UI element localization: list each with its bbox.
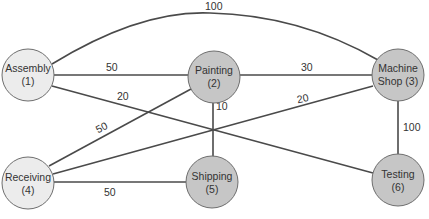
node-number: Shop (3) [378, 75, 418, 87]
node-circle [186, 156, 238, 208]
node-machine-shop: Machine Shop (3) [372, 49, 424, 101]
node-receiving: Receiving (4) [2, 157, 54, 209]
node-name: Machine [378, 62, 418, 74]
node-shipping: Shipping (5) [186, 156, 238, 208]
node-number: (2) [208, 77, 221, 89]
node-name: Testing [381, 168, 414, 180]
node-number: (1) [22, 75, 35, 87]
node-name: Receiving [5, 171, 51, 183]
node-circle [372, 154, 424, 206]
edge-label-painting-machine-shop: 30 [301, 61, 313, 73]
edge-label-receiving-shipping: 50 [104, 186, 116, 198]
edge-label-assembly-painting: 50 [106, 61, 118, 73]
node-name: Assembly [5, 62, 51, 74]
node-name: Painting [195, 64, 233, 76]
node-assembly: Assembly (1) [2, 49, 54, 101]
node-painting: Painting (2) [188, 51, 240, 103]
node-number: (6) [392, 181, 405, 193]
edge-label-assembly-machine-shop: 100 [205, 0, 223, 12]
network-diagram: 100 50 30 20 10 20 50 100 50 Assembly (1… [0, 0, 429, 219]
node-number: (5) [206, 183, 219, 195]
edge-labels: 100 50 30 20 10 20 50 100 50 [93, 0, 420, 198]
edge-label-assembly-testing: 20 [117, 90, 129, 102]
edge-label-receiving-painting: 50 [93, 119, 109, 135]
edge-label-machine-shop-testing: 100 [403, 121, 421, 133]
node-circle [2, 157, 54, 209]
node-name: Shipping [192, 170, 233, 182]
edge-label-receiving-machine-shop: 20 [296, 91, 310, 105]
node-number: (4) [22, 184, 35, 196]
node-testing: Testing (6) [372, 154, 424, 206]
